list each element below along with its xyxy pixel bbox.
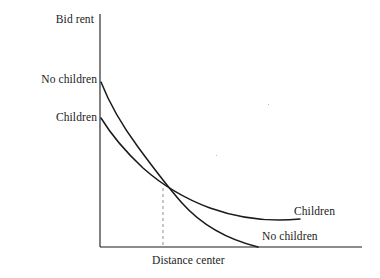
chart-canvas	[0, 0, 380, 278]
annotation-children-tail: Children	[294, 205, 335, 218]
annotation-children-intercept: Children	[56, 111, 97, 124]
scan-speck	[216, 155, 217, 156]
annotation-no-children-tail: No children	[262, 230, 318, 243]
y-axis-title: Bid rent	[56, 13, 94, 26]
x-axis-title: Distance center	[152, 254, 225, 267]
curve-children	[101, 118, 300, 220]
scan-speck	[268, 104, 269, 105]
bid-rent-chart: Bid rent No children Children Children N…	[0, 0, 380, 278]
curve-no-children	[101, 82, 258, 247]
annotation-no-children-intercept: No children	[41, 73, 97, 86]
